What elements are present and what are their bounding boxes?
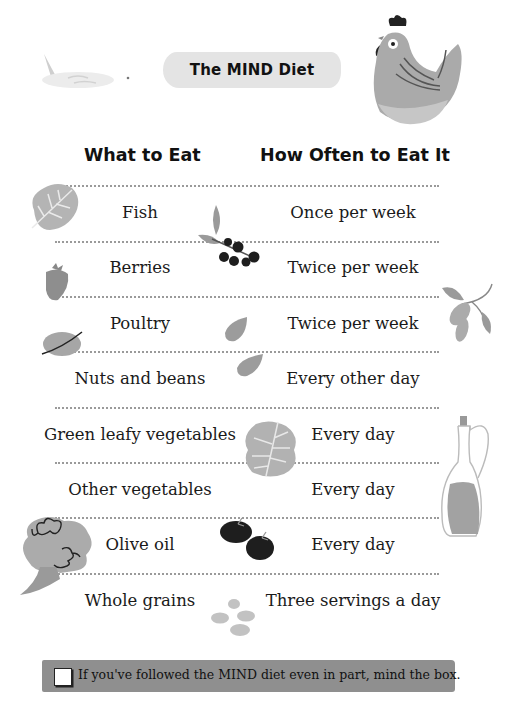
food-cell: Green leafy vegetables	[40, 425, 240, 444]
olive-oil-bottle-icon	[440, 414, 490, 538]
almond-icon	[221, 315, 251, 345]
mind-diet-checkbox[interactable]	[54, 668, 72, 686]
berry-branch-icon	[196, 205, 266, 270]
leaf-icon	[26, 180, 82, 236]
footer-text: If you've followed the MIND diet even in…	[78, 667, 460, 682]
page-title: The MIND Diet	[163, 52, 341, 88]
frequency-cell: Once per week	[258, 203, 448, 222]
strawberry-icon	[42, 262, 72, 302]
frequency-cell: Three servings a day	[258, 591, 448, 610]
lettuce-leaf-icon	[244, 420, 300, 478]
frequency-cell: Every other day	[258, 369, 448, 388]
fish-icon	[38, 50, 138, 110]
grains-icon	[210, 598, 260, 638]
row-divider	[55, 573, 439, 575]
frequency-cell: Twice per week	[258, 258, 448, 277]
nut-icon	[40, 328, 86, 360]
broccoli-icon	[20, 515, 96, 600]
row-divider	[55, 185, 439, 187]
frequency-cell: Twice per week	[258, 314, 448, 333]
column-header-frequency: How Often to Eat It	[260, 145, 450, 165]
frequency-cell: Every day	[258, 480, 448, 499]
tomatoes-icon	[218, 518, 280, 566]
food-cell: Other vegetables	[40, 480, 240, 499]
almond-icon	[233, 352, 265, 382]
olive-branch-icon	[440, 284, 500, 350]
frequency-cell: Every day	[258, 535, 448, 554]
row-divider	[55, 296, 439, 298]
column-header-food: What to Eat	[84, 145, 201, 165]
food-cell: Nuts and beans	[40, 369, 240, 388]
chicken-icon	[360, 14, 470, 134]
row-divider	[55, 407, 439, 409]
